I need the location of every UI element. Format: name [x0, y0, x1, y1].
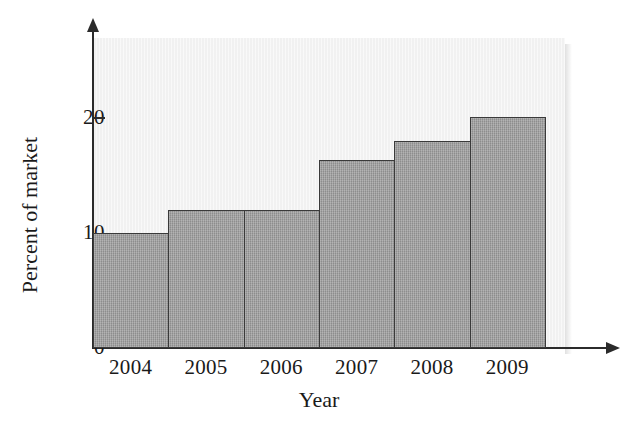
bar-2009 [470, 117, 546, 348]
bar-2004 [93, 233, 169, 348]
bar-2008 [394, 141, 470, 348]
y-axis-title: Percent of market [18, 85, 42, 345]
x-axis-title: Year [93, 388, 545, 412]
x-tick-label-2009: 2009 [460, 355, 555, 379]
bar-2007 [319, 160, 395, 348]
bar-2006 [244, 210, 320, 348]
bar-chart-figure: 0 10 20 2004 2005 2006 2007 2008 2009 Pe… [0, 0, 641, 431]
bar-2005 [168, 210, 244, 348]
